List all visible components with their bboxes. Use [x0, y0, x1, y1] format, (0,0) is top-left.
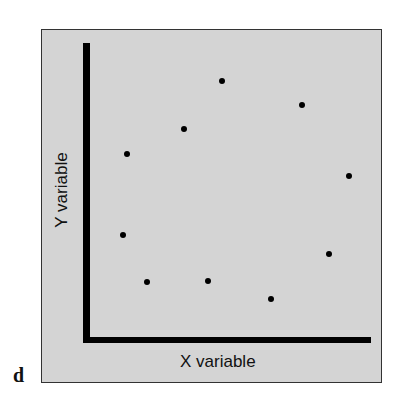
data-point — [299, 102, 305, 108]
data-point — [124, 151, 130, 157]
data-point — [219, 78, 225, 84]
data-point — [120, 232, 126, 238]
data-point — [346, 173, 352, 179]
data-point — [205, 278, 211, 284]
data-point — [268, 296, 274, 302]
x-axis-line — [83, 337, 371, 343]
y-axis-line — [83, 43, 90, 343]
x-axis-label: X variable — [180, 352, 256, 372]
panel-label: d — [13, 364, 24, 387]
data-point — [181, 126, 187, 132]
chart-panel — [41, 29, 382, 383]
data-point — [144, 279, 150, 285]
y-axis-label: Y variable — [52, 152, 72, 227]
data-point — [326, 251, 332, 257]
